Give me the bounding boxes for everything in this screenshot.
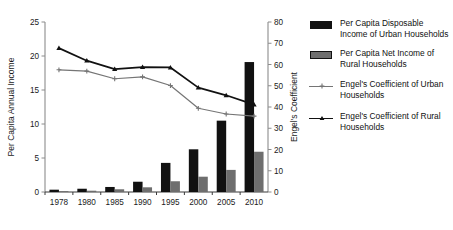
right-axis-tick-label: 60 <box>274 61 284 70</box>
x-axis-tick-label: 1985 <box>106 198 125 207</box>
legend-item-urban-engel: Engel's Coefficient of Urban Households <box>308 79 453 100</box>
left-axis-tick-label: 0 <box>34 188 39 197</box>
right-axis-tick-label: 50 <box>274 82 284 91</box>
chart-canvas: 0510152025010203040506070801978198019851… <box>0 0 453 230</box>
left-axis-tick-label: 20 <box>30 52 40 61</box>
bar-rural_income-1978 <box>59 191 68 192</box>
legend-key-black-bar-icon <box>308 18 334 32</box>
right-axis-tick-label: 0 <box>274 188 279 197</box>
bar-urban_income-1990 <box>133 182 142 192</box>
x-axis-tick-label: 1995 <box>161 198 180 207</box>
line-urban_engel <box>59 70 254 116</box>
legend-item-urban-income: Per Capita Disposable Income of Urban Ho… <box>308 18 453 39</box>
marker-rural_engel-1978 <box>56 46 61 51</box>
marker-urban_engel-1980 <box>84 69 89 74</box>
left-axis-tick-label: 25 <box>30 18 40 27</box>
legend-key-black-line-triangle-icon <box>308 111 334 125</box>
bar-urban_income-2005 <box>217 121 226 192</box>
left-axis-tick-label: 10 <box>30 120 40 129</box>
right-axis-tick-label: 10 <box>274 167 284 176</box>
legend-label-urban-income: Per Capita Disposable Income of Urban Ho… <box>340 18 452 39</box>
marker-urban_engel-1990 <box>140 74 145 79</box>
marker-urban_engel-1978 <box>57 67 62 72</box>
legend-key-gray-bar-icon <box>308 48 334 62</box>
bar-urban_income-1995 <box>161 163 170 192</box>
right-axis-title: Engel's Coefficient <box>289 71 299 142</box>
bar-urban_income-1978 <box>49 190 58 192</box>
x-axis-tick-label: 1990 <box>133 198 152 207</box>
bar-urban_income-1980 <box>77 189 86 192</box>
x-axis-tick-label: 2000 <box>189 198 208 207</box>
bar-rural_income-2000 <box>198 177 207 192</box>
bar-urban_income-1985 <box>105 187 114 192</box>
right-axis-tick-label: 20 <box>274 146 284 155</box>
bar-urban_income-2000 <box>189 149 198 192</box>
marker-urban_engel-2005 <box>224 112 229 117</box>
legend-key-gray-line-plus-icon <box>308 79 334 93</box>
left-axis-tick-label: 15 <box>30 86 40 95</box>
bar-urban_income-2010 <box>245 62 254 192</box>
x-axis-tick-label: 2005 <box>217 198 236 207</box>
right-axis-tick-label: 30 <box>274 124 284 133</box>
legend-item-rural-engel: Engel's Coefficient of Rural Households <box>308 111 453 132</box>
marker-urban_engel-1985 <box>112 76 117 81</box>
bar-rural_income-1980 <box>87 191 96 192</box>
bar-rural_income-2005 <box>226 170 235 192</box>
right-axis-tick-label: 70 <box>274 39 284 48</box>
chart-figure: 0510152025010203040506070801978198019851… <box>0 0 453 230</box>
bar-rural_income-1995 <box>170 181 179 192</box>
left-axis-tick-label: 5 <box>34 154 39 163</box>
legend-label-urban-engel: Engel's Coefficient of Urban Households <box>340 79 452 100</box>
chart-legend: Per Capita Disposable Income of Urban Ho… <box>308 18 453 141</box>
right-axis-tick-label: 40 <box>274 103 284 112</box>
bar-rural_income-1985 <box>115 189 124 192</box>
x-axis-tick-label: 2010 <box>245 198 264 207</box>
x-axis-tick-label: 1980 <box>78 198 97 207</box>
right-axis-tick-label: 80 <box>274 18 284 27</box>
bar-rural_income-1990 <box>143 187 152 192</box>
left-axis-title: Per Capita Annual Income <box>6 57 16 156</box>
x-axis-tick-label: 1978 <box>50 198 69 207</box>
legend-label-rural-engel: Engel's Coefficient of Rural Households <box>340 111 452 132</box>
legend-item-rural-income: Per Capita Net Income of Rural Household… <box>308 48 453 69</box>
bar-rural_income-2010 <box>254 152 263 192</box>
legend-label-rural-income: Per Capita Net Income of Rural Household… <box>340 48 452 69</box>
